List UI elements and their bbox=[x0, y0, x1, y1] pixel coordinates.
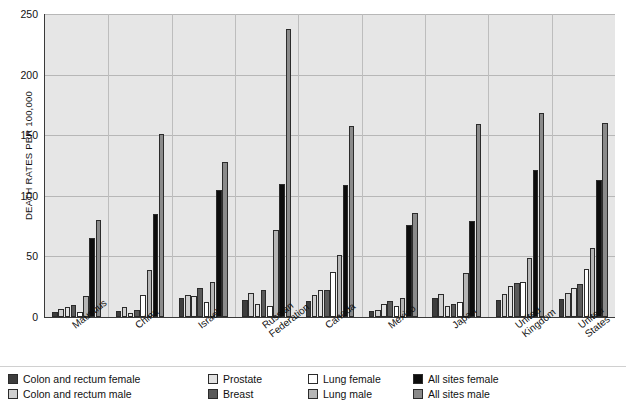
bar bbox=[122, 307, 128, 317]
legend-divider bbox=[0, 366, 626, 367]
legend-item[interactable]: Lung male bbox=[308, 388, 372, 400]
bar bbox=[387, 301, 393, 317]
y-axis-tick: 50 bbox=[26, 250, 38, 262]
bar bbox=[577, 284, 583, 317]
plot-area bbox=[44, 14, 615, 318]
legend-label: All sites male bbox=[428, 388, 490, 400]
legend-label: Colon and rectum female bbox=[23, 373, 140, 385]
legend-swatch-icon bbox=[208, 374, 218, 384]
bar bbox=[248, 293, 254, 317]
group-separator bbox=[298, 14, 299, 317]
bar bbox=[381, 304, 387, 317]
legend-label: Colon and rectum male bbox=[23, 388, 132, 400]
bar bbox=[602, 123, 608, 317]
bar bbox=[476, 124, 482, 317]
bar bbox=[445, 306, 451, 317]
bar bbox=[179, 298, 185, 317]
legend-swatch-icon bbox=[308, 374, 318, 384]
bar-group bbox=[116, 14, 165, 317]
bar bbox=[191, 296, 197, 317]
bar bbox=[255, 304, 261, 317]
group-separator bbox=[488, 14, 489, 317]
bar bbox=[324, 290, 330, 317]
legend-swatch-icon bbox=[413, 374, 423, 384]
y-axis-tick-labels: 050100150200250 bbox=[0, 0, 44, 303]
bar bbox=[565, 293, 571, 317]
legend-item[interactable]: Colon and rectum male bbox=[8, 388, 132, 400]
bar bbox=[273, 230, 279, 317]
bar bbox=[279, 184, 285, 317]
bar bbox=[286, 29, 292, 317]
y-axis-tick: 200 bbox=[20, 69, 38, 81]
legend-item[interactable]: Lung female bbox=[308, 373, 381, 385]
bar bbox=[508, 286, 514, 318]
chart-legend: Colon and rectum femaleColon and rectum … bbox=[8, 373, 618, 403]
legend-label: Breast bbox=[223, 388, 253, 400]
bar bbox=[514, 283, 520, 317]
bar bbox=[596, 180, 602, 317]
y-axis-tick: 0 bbox=[32, 311, 38, 323]
bar bbox=[559, 299, 565, 317]
group-separator bbox=[552, 14, 553, 317]
legend-swatch-icon bbox=[8, 389, 18, 399]
bar bbox=[330, 272, 336, 317]
bar bbox=[375, 310, 381, 317]
bar-group bbox=[242, 14, 291, 317]
bar bbox=[318, 290, 324, 317]
bar-chart: DEATH RATES PER 100,000 050100150200250 … bbox=[0, 0, 626, 406]
bar bbox=[432, 298, 438, 317]
bar bbox=[469, 221, 475, 317]
legend-label: Lung male bbox=[323, 388, 372, 400]
bar bbox=[539, 113, 545, 317]
y-axis-tick: 100 bbox=[20, 190, 38, 202]
legend-item[interactable]: All sites male bbox=[413, 388, 490, 400]
bar bbox=[185, 295, 191, 317]
legend-swatch-icon bbox=[208, 389, 218, 399]
bar bbox=[412, 213, 418, 317]
bar bbox=[533, 170, 539, 317]
legend-label: All sites female bbox=[428, 373, 499, 385]
bar bbox=[58, 309, 64, 317]
y-axis-tick: 150 bbox=[20, 129, 38, 141]
group-separator bbox=[108, 14, 109, 317]
bar bbox=[261, 290, 267, 317]
bar bbox=[343, 185, 349, 317]
bar-group bbox=[306, 14, 355, 317]
group-separator bbox=[425, 14, 426, 317]
legend-swatch-icon bbox=[308, 389, 318, 399]
bar bbox=[451, 304, 457, 317]
bar bbox=[571, 288, 577, 317]
bar bbox=[496, 300, 502, 317]
legend-item[interactable]: All sites female bbox=[413, 373, 499, 385]
legend-swatch-icon bbox=[8, 374, 18, 384]
legend-swatch-icon bbox=[413, 389, 423, 399]
bar-group bbox=[369, 14, 418, 317]
legend-item[interactable]: Breast bbox=[208, 388, 253, 400]
legend-item[interactable]: Prostate bbox=[208, 373, 262, 385]
group-separator bbox=[235, 14, 236, 317]
bar bbox=[369, 311, 375, 317]
bar bbox=[216, 190, 222, 317]
legend-item[interactable]: Colon and rectum female bbox=[8, 373, 140, 385]
bar-group bbox=[52, 14, 101, 317]
bar bbox=[71, 305, 77, 317]
bar bbox=[438, 294, 444, 317]
bar bbox=[153, 214, 159, 317]
bar-group bbox=[559, 14, 608, 317]
y-axis-tick: 250 bbox=[20, 8, 38, 20]
bar bbox=[242, 300, 248, 317]
bar bbox=[159, 134, 165, 317]
group-separator bbox=[362, 14, 363, 317]
bar bbox=[128, 313, 134, 317]
bar bbox=[222, 162, 228, 317]
bar bbox=[197, 288, 203, 317]
legend-label: Lung female bbox=[323, 373, 381, 385]
bar bbox=[584, 269, 590, 317]
bar-group bbox=[179, 14, 228, 317]
bar bbox=[349, 126, 355, 317]
bar bbox=[116, 311, 122, 317]
group-separator bbox=[172, 14, 173, 317]
bar bbox=[52, 312, 58, 317]
bar-group bbox=[432, 14, 481, 317]
bar-group bbox=[496, 14, 545, 317]
